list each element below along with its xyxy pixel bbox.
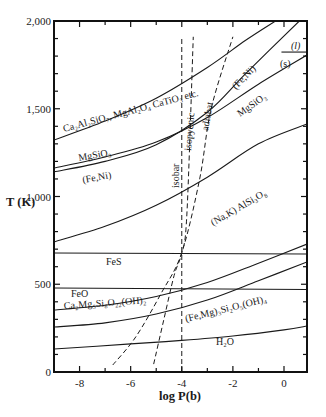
label-solid: (s) — [280, 58, 291, 70]
label-feo: FeO — [71, 288, 88, 299]
label-mgsio3-right: MgSiO₃ — [235, 91, 268, 119]
curve-fes — [54, 253, 307, 254]
y-axis-title: T (K) — [6, 195, 35, 209]
label-h2o: H₂O — [216, 336, 234, 347]
y-tick-label: 500 — [35, 278, 52, 290]
curve-fe-mg-3si2o5-oh-4 — [54, 262, 307, 327]
x-tick-label: -6 — [126, 377, 136, 389]
label-liquid: (l) — [291, 40, 301, 52]
x-tick-label: -2 — [228, 377, 237, 389]
y-tick-label: 0 — [46, 366, 52, 378]
condensation-chart: 05001,0001,5002,000-8-6-4-20 T (K) log P… — [0, 0, 326, 417]
label-isobar: isobar — [170, 163, 181, 188]
plot-area — [54, 21, 307, 372]
y-tick-label: 1,500 — [26, 103, 51, 115]
label-feni-upper: (Fe,Ni) — [230, 63, 259, 92]
curve-h2o — [54, 326, 307, 349]
label-nak: (Na,K) AlSi₃O₈ — [209, 187, 270, 229]
plot-frame — [54, 21, 307, 372]
label-feni-left: (Fe,Ni) — [81, 169, 112, 186]
curve-feo — [54, 288, 307, 290]
x-tick-label: -8 — [75, 377, 85, 389]
label-isopycnic: isopycnic — [182, 111, 196, 151]
x-tick-label: -4 — [177, 377, 187, 389]
x-axis-title: log P(b) — [159, 389, 201, 403]
label-fes: FeS — [106, 256, 122, 267]
x-tick-label: 0 — [281, 377, 287, 389]
label-adiabat: adiabat — [199, 101, 215, 132]
label-ca2al2sio7: Ca₂Al₂SiO₇, MgAl₂O₄ CaTiO₃ etc. — [62, 87, 200, 134]
label-serpentine: (Fe,Mg)₃Si₂O₅(OH)₄ — [184, 293, 269, 325]
y-tick-label: 2,000 — [26, 15, 51, 27]
